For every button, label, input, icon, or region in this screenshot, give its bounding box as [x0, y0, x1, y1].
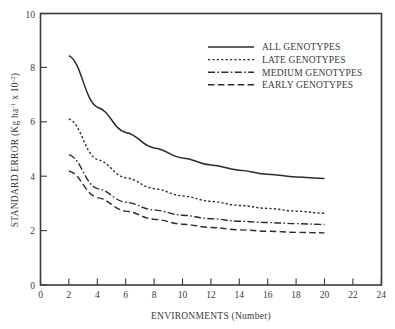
y-tick-label-6: 6 [30, 117, 35, 127]
line-chart: 0 2 4 6 8 10 0 2 4 6 [0, 0, 395, 329]
legend-label-0: ALL GENOTYPES [262, 42, 341, 52]
x-tick-label-4: 4 [95, 290, 100, 300]
x-tick-label-16: 16 [263, 290, 273, 300]
x-tick-label-12: 12 [206, 290, 216, 300]
y-axis-ticks [41, 14, 48, 286]
x-tick-label-14: 14 [235, 290, 245, 300]
x-tick-label-18: 18 [291, 290, 301, 300]
series-line-late-genotypes [69, 119, 325, 213]
y-axis-tick-labels: 0 2 4 6 8 10 [26, 10, 36, 291]
x-tick-label-10: 10 [178, 290, 188, 300]
legend-label-3: EARLY GENOTYPES [262, 80, 353, 90]
x-axis-ticks [41, 279, 382, 286]
y-tick-label-10: 10 [26, 10, 36, 20]
x-tick-label-6: 6 [123, 290, 128, 300]
x-tick-label-8: 8 [152, 290, 157, 300]
x-tick-label-20: 20 [320, 290, 330, 300]
x-tick-label-22: 22 [348, 290, 358, 300]
y-tick-label-0: 0 [30, 281, 35, 291]
y-axis-title-main: STANDARD ERROR (Kg ha [10, 108, 21, 227]
legend-label-1: LATE GENOTYPES [262, 55, 346, 65]
y-tick-label-8: 8 [30, 63, 35, 73]
chart-legend: ALL GENOTYPESLATE GENOTYPESMEDIUM GENOTY… [208, 42, 363, 90]
y-tick-label-4: 4 [30, 172, 35, 182]
x-tick-label-0: 0 [38, 290, 43, 300]
x-tick-label-2: 2 [67, 290, 72, 300]
chart-figure: 0 2 4 6 8 10 0 2 4 6 [0, 0, 395, 329]
series-line-early-genotypes [69, 171, 325, 233]
x-axis-tick-labels: 0 2 4 6 8 10 12 14 16 18 20 22 24 [38, 290, 386, 300]
y-axis-title: STANDARD ERROR (Kg ha-1 x 10-2) [9, 73, 21, 227]
y-axis-title-end: ) [10, 73, 21, 76]
y-tick-label-2: 2 [30, 226, 35, 236]
x-tick-label-24: 24 [377, 290, 387, 300]
y-axis-title-mid: x 10 [10, 82, 20, 102]
legend-label-2: MEDIUM GENOTYPES [262, 68, 363, 78]
x-axis-title: ENVIRONMENTS (Number) [151, 311, 271, 322]
